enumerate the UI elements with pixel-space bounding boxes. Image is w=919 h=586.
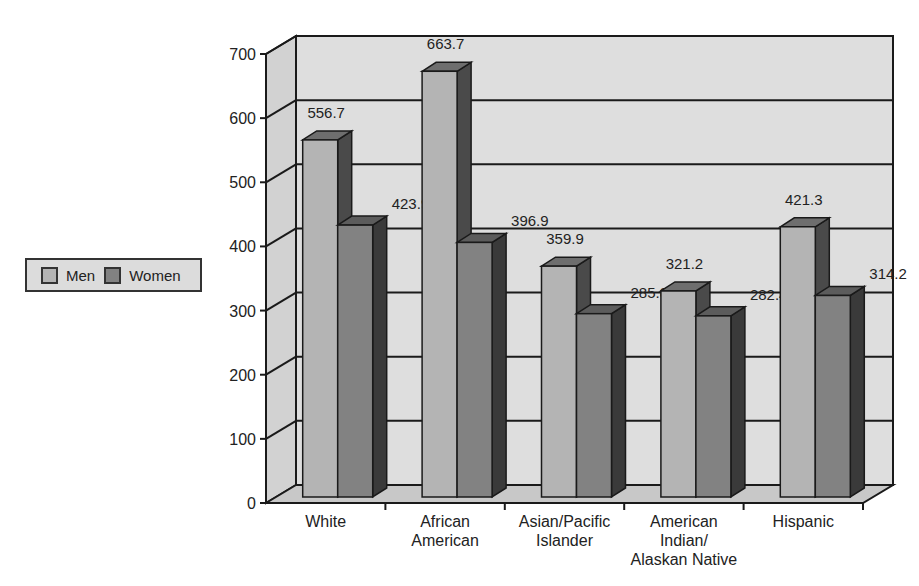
- y-tick-label: 400: [229, 238, 256, 255]
- bar-women: [338, 225, 373, 497]
- legend-label-women: Women: [129, 267, 180, 284]
- x-category-label: American: [411, 532, 479, 549]
- x-category-label: Alaskan Native: [631, 551, 738, 568]
- data-label: 421.3: [785, 191, 823, 208]
- bar-women: [577, 314, 612, 497]
- bar-chart: 0100200300400500600700556.7423.9White663…: [0, 0, 919, 586]
- x-category-label: American: [650, 513, 718, 530]
- y-tick-label: 100: [229, 431, 256, 448]
- y-tick-label: 600: [229, 110, 256, 127]
- legend: Men Women: [25, 258, 202, 292]
- bar-men: [422, 71, 457, 497]
- bar-women: [457, 242, 492, 497]
- data-label: 396.9: [511, 212, 549, 229]
- y-tick-label: 300: [229, 303, 256, 320]
- data-label: 314.2: [869, 265, 907, 282]
- data-label: 556.7: [307, 104, 345, 121]
- bar-side: [492, 233, 506, 497]
- x-category-label: White: [305, 513, 346, 530]
- data-label: 663.7: [427, 35, 465, 52]
- legend-swatch-women: [104, 267, 121, 284]
- x-category-label: Asian/Pacific: [519, 513, 611, 530]
- data-label: 321.2: [666, 255, 704, 272]
- legend-swatch-men: [41, 267, 58, 284]
- bar-men: [661, 291, 696, 497]
- bar-side: [612, 305, 626, 497]
- legend-label-men: Men: [66, 267, 95, 284]
- bar-men: [303, 140, 338, 497]
- y-tick-label: 0: [247, 495, 256, 512]
- bar-women: [696, 316, 731, 497]
- y-tick-label: 200: [229, 367, 256, 384]
- bar-men: [780, 227, 815, 497]
- bar-women: [815, 295, 850, 497]
- y-tick-label: 700: [229, 46, 256, 63]
- bar-side: [373, 216, 387, 497]
- x-category-label: African: [420, 513, 470, 530]
- bar-side: [850, 286, 864, 497]
- y-tick-label: 500: [229, 174, 256, 191]
- side-wall: [266, 36, 296, 503]
- data-label: 359.9: [546, 230, 584, 247]
- x-category-label: Hispanic: [773, 513, 834, 530]
- bar-side: [731, 307, 745, 497]
- x-category-label: Islander: [536, 532, 594, 549]
- bar-men: [542, 266, 577, 497]
- x-category-label: Indian/: [660, 532, 709, 549]
